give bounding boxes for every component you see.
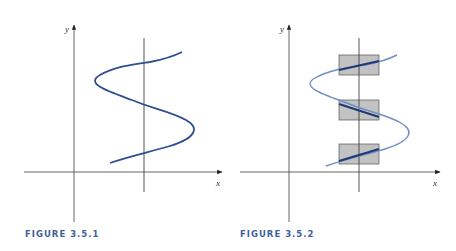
y-axis-label: y: [279, 24, 284, 34]
figure-2-caption: FIGURE 3.5.2: [240, 229, 314, 239]
figure-2: y x: [240, 24, 440, 222]
y-axis-label: y: [64, 24, 69, 34]
figure-1-caption: FIGURE 3.5.1: [25, 229, 99, 239]
figures-canvas: y x y x: [0, 0, 456, 251]
x-axis-label: x: [432, 178, 437, 188]
s-curve: [95, 52, 194, 163]
figure-1: y x: [24, 24, 222, 222]
x-axis-label: x: [215, 178, 220, 188]
